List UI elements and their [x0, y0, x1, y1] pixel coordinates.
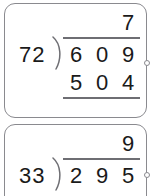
quotient-digit: [63, 10, 89, 36]
quotient-digit: [89, 131, 115, 157]
work-digit: 0: [89, 70, 115, 96]
dividend-digit: 9: [115, 42, 141, 68]
dividend-digit: 5: [115, 163, 141, 189]
dividend-row: 6 0 9: [63, 42, 141, 68]
divisor-value: 72: [19, 42, 45, 68]
worksheet-stage: 72 7 6 0 9 5 0 4: [0, 0, 157, 196]
division-vinculum: [63, 158, 140, 160]
long-division-expression: 72 7 6 0 9 5 0 4: [5, 4, 146, 117]
circle-connector-icon[interactable]: [144, 60, 150, 66]
dividend-row: 2 9 5: [63, 163, 141, 189]
dividend-digit: 6: [63, 42, 89, 68]
dividend-digit: 2: [63, 163, 89, 189]
quotient-row: 9: [63, 131, 141, 157]
quotient-digit: 9: [115, 131, 141, 157]
division-vinculum: [63, 37, 140, 39]
quotient-digit: [63, 131, 89, 157]
quotient-row: 7: [63, 10, 141, 36]
quotient-digit: 7: [115, 10, 141, 36]
dividend-digit: 0: [89, 42, 115, 68]
division-problem-card[interactable]: 33 9 2 9 5: [4, 124, 147, 196]
work-row: 5 0 4: [63, 70, 141, 96]
long-division-expression: 33 9 2 9 5: [5, 125, 146, 196]
quotient-digit: [89, 10, 115, 36]
circle-connector-icon[interactable]: [144, 172, 150, 178]
divisor-value: 33: [19, 163, 45, 189]
dividend-digit: 9: [89, 163, 115, 189]
subtraction-rule: [63, 97, 140, 99]
division-problem-card[interactable]: 72 7 6 0 9 5 0 4: [4, 3, 147, 118]
work-digit: 4: [115, 70, 141, 96]
work-digit: 5: [63, 70, 89, 96]
